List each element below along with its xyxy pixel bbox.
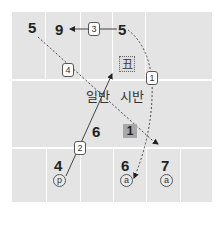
circled-a: a bbox=[120, 174, 133, 187]
circled-p: p bbox=[53, 174, 66, 187]
number-bottom-seven: 7 bbox=[161, 158, 169, 173]
step-marker-4: 4 bbox=[62, 63, 74, 77]
label-ilban: 일반 bbox=[86, 90, 110, 103]
number-top-five: 5 bbox=[118, 22, 126, 37]
label-siban: 시반 bbox=[120, 90, 144, 103]
arrow-step-1 bbox=[128, 30, 152, 178]
number-bottom-six: 6 bbox=[121, 158, 129, 173]
step-marker-3: 3 bbox=[88, 22, 100, 36]
step-marker-2: 2 bbox=[74, 141, 86, 155]
number-top-left: 5 bbox=[28, 20, 36, 35]
number-mid-six: 6 bbox=[92, 124, 100, 139]
step-marker-1: 1 bbox=[146, 71, 158, 85]
number-bottom-four: 4 bbox=[54, 158, 62, 173]
highlighted-number: 1 bbox=[123, 124, 137, 138]
number-nine: 9 bbox=[55, 22, 63, 37]
circled-a: a bbox=[160, 174, 173, 187]
chuk-box: 丑 bbox=[119, 56, 135, 72]
